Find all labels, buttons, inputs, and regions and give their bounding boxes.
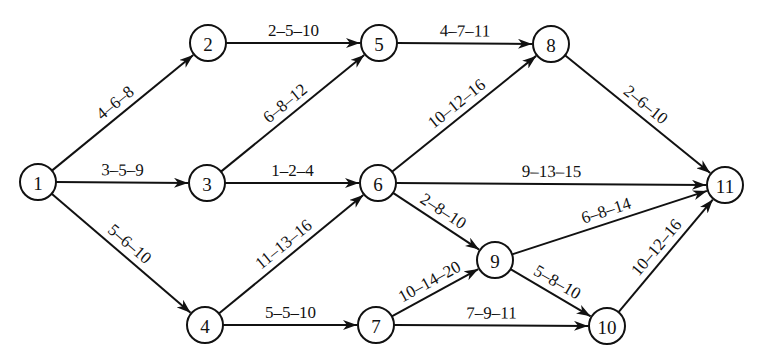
edge-label-6-8: 10–12–16 [424, 75, 489, 132]
node-label: 2 [203, 34, 213, 55]
edge-6-11 [396, 183, 706, 185]
edge-label-6-11: 9–13–15 [522, 162, 582, 181]
pert-network-diagram: 4–6–83–5–95–6–102–5–106–8–121–2–411–13–1… [0, 0, 757, 364]
node-3: 3 [189, 165, 225, 201]
edge-label-1-2: 4–6–8 [93, 82, 138, 124]
node-8: 8 [533, 26, 569, 62]
edge-label-1-3: 3–5–9 [101, 160, 144, 179]
node-7: 7 [358, 307, 394, 343]
node-9: 9 [477, 242, 513, 278]
edge-1-4 [52, 194, 191, 313]
node-label: 3 [202, 174, 212, 195]
edge-label-10-11: 10–12–16 [627, 215, 685, 279]
node-label: 1 [33, 173, 43, 194]
node-5: 5 [361, 25, 397, 61]
node-label: 6 [373, 174, 383, 195]
node-label: 4 [200, 316, 210, 337]
node-label: 11 [716, 176, 734, 197]
edge-6-8 [392, 56, 536, 172]
edge-label-9-11: 6–8–14 [579, 194, 634, 228]
edge-7-10 [394, 325, 588, 326]
edge-label-2-5: 2–5–10 [268, 21, 319, 40]
edge-3-5 [221, 55, 364, 172]
edge-8-11 [565, 55, 710, 173]
node-label: 7 [371, 316, 381, 337]
edge-label-7-10: 7–9–11 [466, 303, 516, 322]
edge-label-3-6: 1–2–4 [271, 161, 314, 180]
edge-5-8 [397, 43, 532, 44]
node-1: 1 [20, 164, 56, 200]
node-6: 6 [360, 165, 396, 201]
edge-label-4-7: 5–5–10 [265, 303, 316, 322]
node-label: 10 [598, 317, 617, 338]
edge-1-2 [52, 55, 193, 171]
edge-1-3 [56, 182, 188, 183]
edge-label-5-8: 4–7–11 [440, 21, 490, 40]
edge-label-4-6: 11–13–16 [252, 216, 316, 273]
node-label: 8 [546, 35, 556, 56]
node-label: 9 [490, 251, 500, 272]
edge-4-6 [219, 195, 363, 314]
node-2: 2 [190, 25, 226, 61]
node-label: 5 [374, 34, 384, 55]
edge-10-11 [619, 200, 713, 313]
node-11: 11 [707, 167, 743, 203]
node-4: 4 [187, 307, 223, 343]
node-10: 10 [589, 308, 625, 344]
